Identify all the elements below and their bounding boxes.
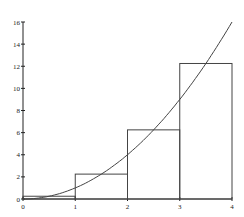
chart: 012340246810121416 [0,0,244,217]
tick-labels: 012340246810121416 [13,19,234,212]
y-tick-label: 6 [17,129,21,137]
y-tick-label: 2 [17,173,21,181]
y-tick-label: 4 [17,151,21,159]
step-rectangle [128,130,180,199]
x-tick-label: 3 [178,203,182,211]
y-tick-label: 12 [13,63,21,71]
x-tick-label: 4 [230,203,234,211]
x-tick-label: 1 [74,203,78,211]
y-tick-label: 0 [17,196,21,204]
step-rectangle [180,63,232,199]
step-rectangles [23,63,232,199]
x-tick-label: 2 [126,203,130,211]
y-tick-label: 16 [13,19,21,27]
step-rectangle [75,174,127,199]
y-tick-label: 10 [13,85,21,93]
x-tick-label: 0 [21,203,25,211]
y-tick-label: 8 [17,107,21,115]
y-tick-label: 14 [13,41,21,49]
